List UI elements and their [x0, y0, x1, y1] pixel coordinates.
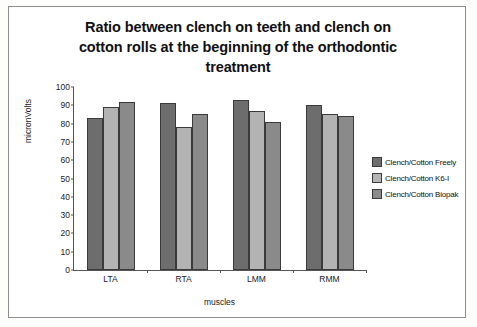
legend-label: Clench/Cotton Biopak [385, 190, 458, 199]
y-axis-tick-label: 90 [61, 100, 70, 110]
bar [119, 102, 135, 270]
x-axis-tick-label: LMM [220, 274, 293, 284]
bar [176, 127, 192, 270]
y-axis-label: micronVolts [23, 99, 33, 143]
bar [233, 100, 249, 270]
bar-group-bars [293, 87, 366, 270]
x-axis-label: muscles [73, 297, 366, 307]
y-axis-tick-label: 0 [65, 265, 70, 275]
bar [87, 118, 103, 270]
x-axis-tick-label: RTA [147, 274, 220, 284]
x-axis-tick-mark [366, 270, 367, 273]
bar-group: RTA [147, 87, 220, 270]
bar-group: RMM [293, 87, 366, 270]
bar-group-bars [147, 87, 220, 270]
bar-group: LTA [74, 87, 147, 270]
bar [192, 114, 208, 270]
chart-title: Ratio between clench on teeth and clench… [35, 17, 441, 77]
legend-item: Clench/Cotton Biopak [372, 189, 476, 199]
bar [306, 105, 322, 270]
y-axis-tick-label: 10 [61, 247, 70, 257]
x-axis-tick-mark [220, 270, 221, 273]
y-axis-tick-label: 60 [61, 155, 70, 165]
legend-label: Clench/Cotton Freely [385, 158, 456, 167]
bar-group: LMM [220, 87, 293, 270]
bar [160, 103, 176, 270]
chart-title-line-2: cotton rolls at the beginning of the ort… [35, 37, 441, 57]
legend-item: Clench/Cotton Freely [372, 157, 476, 167]
x-axis-tick-label: LTA [74, 274, 147, 284]
bar [249, 111, 265, 270]
chart-page: Ratio between clench on teeth and clench… [0, 0, 477, 327]
bar [265, 122, 281, 270]
bar-group-bars [220, 87, 293, 270]
chart-title-line-3: treatment [35, 57, 441, 77]
y-axis-tick-label: 100 [56, 82, 70, 92]
legend-item: Clench/Cotton K6-I [372, 173, 476, 183]
x-axis-tick-mark [293, 270, 294, 273]
y-axis-tick-label: 80 [61, 119, 70, 129]
plot-area: 0102030405060708090100LTARTALMMRMM [73, 87, 366, 271]
bar [338, 116, 354, 270]
legend-label: Clench/Cotton K6-I [385, 174, 449, 183]
y-axis-tick-label: 40 [61, 192, 70, 202]
y-axis-tick-label: 30 [61, 210, 70, 220]
chart-title-line-1: Ratio between clench on teeth and clench… [35, 17, 441, 37]
y-axis-tick-label: 70 [61, 137, 70, 147]
bar-group-bars [74, 87, 147, 270]
legend-swatch-icon [372, 189, 382, 199]
x-axis-tick-mark [147, 270, 148, 273]
bar [103, 107, 119, 270]
y-axis-tick-label: 20 [61, 228, 70, 238]
bar [322, 114, 338, 270]
chart-legend: Clench/Cotton Freely Clench/Cotton K6-I … [372, 157, 476, 205]
y-axis-tick-label: 50 [61, 174, 70, 184]
legend-swatch-icon [372, 157, 382, 167]
legend-swatch-icon [372, 173, 382, 183]
chart-frame: Ratio between clench on teeth and clench… [8, 6, 466, 318]
x-axis-tick-label: RMM [293, 274, 366, 284]
